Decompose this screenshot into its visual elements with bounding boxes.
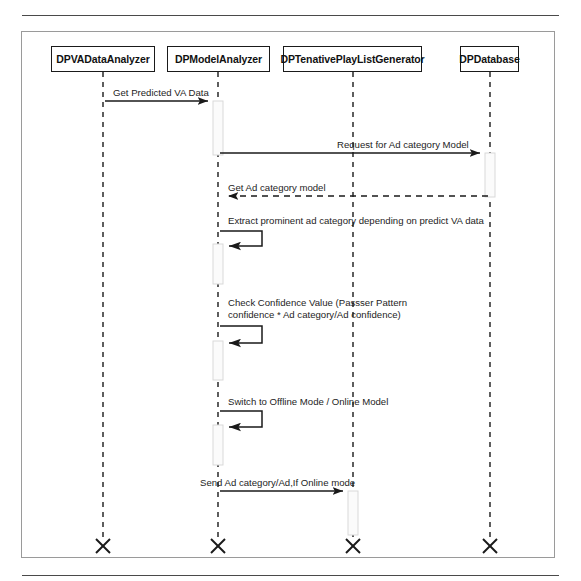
lifeline-label: DPDatabase <box>459 53 519 65</box>
message-label-get-ad-category-model: Get Ad category model <box>228 182 326 194</box>
lifeline-label: DPModelAnalyzer <box>175 53 262 65</box>
lifeline-header-dptenativeplaylistgenerator[interactable]: DPTenativePlayListGenerator <box>283 46 422 72</box>
diagram-page: DPVADataAnalyzer DPModelAnalyzer DPTenat… <box>0 0 581 581</box>
lifeline-header-dpvadataanalyzer[interactable]: DPVADataAnalyzer <box>51 46 155 72</box>
lifeline-header-dpmodelanalyzer[interactable]: DPModelAnalyzer <box>167 46 270 72</box>
message-label-switch-to-offline-mode: Switch to Offline Mode / Online Model <box>228 396 388 408</box>
lifeline-label: DPTenativePlayListGenerator <box>280 53 424 65</box>
lifeline-header-dpdatabase[interactable]: DPDatabase <box>460 46 519 72</box>
message-label-check-confidence-value: Check Confidence Value (Passser Pattern … <box>228 297 446 321</box>
message-label-get-predicted-va-data: Get Predicted VA Data <box>113 87 209 99</box>
message-label-request-for-ad-category-model: Request for Ad category Model <box>337 139 469 151</box>
lifeline-label: DPVADataAnalyzer <box>56 53 149 65</box>
message-label-send-ad-category: Send Ad category/Ad,If Online mode <box>200 477 355 489</box>
page-rule-bottom <box>22 575 559 576</box>
message-label-extract-prominent-ad-category: Extract prominent ad category depending … <box>228 215 484 227</box>
page-rule-top <box>22 15 559 16</box>
